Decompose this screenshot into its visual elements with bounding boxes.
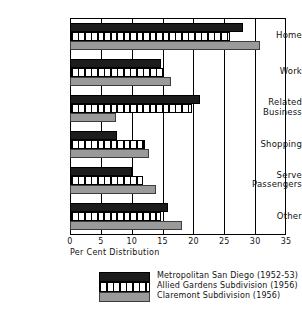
bar-related-business-metropolitan-san-diego-1952-53: [70, 95, 200, 104]
bar-home-allied-gardens-subdivision-1956: [70, 32, 230, 41]
legend-swatch-group: [99, 272, 150, 302]
bar-other-metropolitan-san-diego-1952-53: [70, 203, 168, 212]
category-label-other: Other: [236, 212, 302, 222]
bar-related-business-allied-gardens-subdivision-1956: [70, 104, 192, 113]
category-label-line: Home: [236, 31, 302, 41]
bar-home-metropolitan-san-diego-1952-53: [70, 23, 243, 32]
legend-label-allied-gardens: Allied Gardens Subdivision (1956): [157, 281, 298, 291]
legend-labels: Metropolitan San Diego (1952-53) Allied …: [157, 271, 298, 301]
bar-work-claremont-subdivision-1956: [70, 77, 171, 86]
x-tick-label-5: 5: [98, 237, 103, 246]
bar-serve-passengers-allied-gardens-subdivision-1956: [70, 176, 143, 185]
x-tick-label-10: 10: [126, 237, 137, 246]
category-label-related-business: RelatedBusiness: [236, 98, 302, 117]
legend-label-claremont: Claremont Subdivision (1956): [157, 291, 298, 301]
x-tick-label-20: 20: [188, 237, 199, 246]
category-label-line: Work: [236, 67, 302, 77]
legend-swatch-claremont: [99, 292, 150, 302]
category-label-home: Home: [236, 31, 302, 41]
category-label-serve-passengers: ServePassengers: [236, 171, 302, 190]
legend-swatch-metropolitan: [99, 272, 150, 282]
bar-serve-passengers-claremont-subdivision-1956: [70, 185, 156, 194]
bar-chart: HomeWorkRelatedBusinessShoppingServePass…: [0, 0, 302, 314]
legend-label-metropolitan: Metropolitan San Diego (1952-53): [157, 271, 298, 281]
x-tick-label-30: 30: [250, 237, 261, 246]
bar-work-metropolitan-san-diego-1952-53: [70, 59, 161, 68]
bar-shopping-claremont-subdivision-1956: [70, 149, 149, 158]
category-label-work: Work: [236, 67, 302, 77]
category-label-line: Shopping: [236, 140, 302, 150]
legend-swatch-allied-gardens: [99, 282, 150, 292]
bar-home-claremont-subdivision-1956: [70, 41, 260, 50]
bar-other-claremont-subdivision-1956: [70, 221, 182, 230]
bar-shopping-metropolitan-san-diego-1952-53: [70, 131, 117, 140]
category-label-line: Other: [236, 212, 302, 222]
bar-serve-passengers-metropolitan-san-diego-1952-53: [70, 167, 132, 176]
legend: Metropolitan San Diego (1952-53) Allied …: [99, 271, 298, 302]
category-label-shopping: Shopping: [236, 140, 302, 150]
x-axis-title: Per Cent Distribution: [70, 248, 160, 257]
x-tick-label-15: 15: [157, 237, 168, 246]
x-tick-label-35: 35: [281, 237, 292, 246]
bar-shopping-allied-gardens-subdivision-1956: [70, 140, 145, 149]
bar-work-allied-gardens-subdivision-1956: [70, 68, 163, 77]
category-label-line: Business: [236, 108, 302, 118]
bar-related-business-claremont-subdivision-1956: [70, 113, 116, 122]
category-label-line: Passengers: [236, 180, 302, 190]
x-tick-label-0: 0: [67, 237, 72, 246]
plot-area: [70, 18, 286, 235]
bar-other-allied-gardens-subdivision-1956: [70, 212, 161, 221]
x-tick-label-25: 25: [219, 237, 230, 246]
